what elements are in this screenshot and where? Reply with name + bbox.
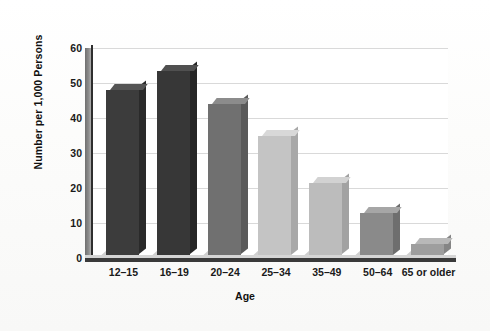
x-axis-title: Age bbox=[0, 290, 490, 302]
bar-side-face bbox=[291, 126, 298, 254]
bar-side-face bbox=[190, 61, 197, 254]
y-tick-label: 30 bbox=[56, 148, 82, 159]
bar-front-face bbox=[208, 104, 241, 258]
y-tick-label: 60 bbox=[56, 43, 82, 54]
bar-front-face bbox=[106, 90, 139, 258]
y-axis-title: Number per 1,000 Persons bbox=[32, 7, 44, 197]
y-tick-label: 0 bbox=[56, 253, 82, 264]
x-tick-label: 65 or older bbox=[389, 266, 469, 278]
plot-area bbox=[92, 48, 448, 258]
y-tick-labels: 0102030405060 bbox=[52, 0, 82, 331]
x-axis-floor-front bbox=[85, 258, 456, 262]
bar-front-face bbox=[258, 136, 291, 259]
bar bbox=[208, 104, 241, 258]
bar-side-face bbox=[241, 95, 248, 254]
bar-side-face bbox=[342, 173, 349, 254]
bar-side-face bbox=[139, 81, 146, 254]
y-tick-label: 50 bbox=[56, 78, 82, 89]
bar bbox=[360, 213, 393, 259]
gridline bbox=[92, 48, 448, 49]
bar bbox=[106, 90, 139, 258]
bar-front-face bbox=[309, 183, 342, 258]
bar bbox=[157, 71, 190, 258]
y-tick-label: 10 bbox=[56, 218, 82, 229]
y-tick-label: 40 bbox=[56, 113, 82, 124]
chart-figure: 0102030405060 Number per 1,000 Persons A… bbox=[0, 0, 490, 331]
bar bbox=[258, 136, 291, 259]
y-axis-line bbox=[91, 45, 93, 262]
y-tick-label: 20 bbox=[56, 183, 82, 194]
bar bbox=[309, 183, 342, 258]
bar-front-face bbox=[360, 213, 393, 259]
bar-front-face bbox=[157, 71, 190, 258]
